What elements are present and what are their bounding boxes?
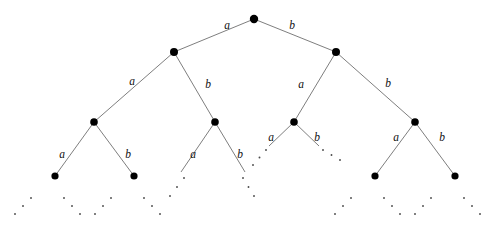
ellipsis-dot xyxy=(422,205,424,207)
tree-edge-root-a xyxy=(174,19,254,52)
ellipsis-dot xyxy=(350,197,352,199)
edge-label-aa-aab: b xyxy=(125,149,131,161)
edge-label-b-ba: a xyxy=(298,79,304,91)
ellipsis-aaa-left-icon xyxy=(14,197,32,215)
ellipsis-dot xyxy=(71,205,73,207)
ellipsis-dot xyxy=(322,149,324,151)
ellipsis-dot xyxy=(159,213,161,215)
tree-truncated-edge-ab-a-0 xyxy=(181,122,215,172)
ellipsis-dot xyxy=(22,205,24,207)
ellipsis-ba-left-icon xyxy=(252,149,267,166)
tree-node-bbb xyxy=(451,172,458,179)
ellipsis-dot xyxy=(102,205,104,207)
ellipsis-dot xyxy=(252,164,254,166)
tree-node-bb xyxy=(411,118,419,126)
edge-label-ab-dots-a: a xyxy=(190,149,196,161)
ellipsis-dot xyxy=(331,154,333,156)
tree-node-aaa xyxy=(51,172,58,179)
ellipsis-dot xyxy=(334,213,336,215)
tree-truncated-edges-group xyxy=(181,122,319,172)
tree-truncated-edge-ab-b-1 xyxy=(215,122,245,172)
ellipsis-dot xyxy=(110,197,112,199)
tree-edge-b-bb xyxy=(336,52,415,122)
tree-node-b xyxy=(332,48,340,56)
ellipsis-dot xyxy=(242,177,244,179)
edge-label-b-bb: b xyxy=(385,78,391,90)
ellipsis-bba-right-icon xyxy=(383,197,401,215)
ellipsis-dot xyxy=(471,205,473,207)
edge-label-root-a: a xyxy=(224,20,230,32)
ellipsis-aab-right-icon xyxy=(143,197,161,215)
ellipsis-dot xyxy=(253,195,255,197)
ellipsis-dot xyxy=(342,205,344,207)
ellipsis-dot xyxy=(463,197,465,199)
ellipsis-dot xyxy=(248,186,250,188)
ellipsis-aaa-right-icon xyxy=(63,197,81,215)
ellipsis-ab-left-icon xyxy=(169,177,185,197)
ellipsis-dot xyxy=(63,197,65,199)
ellipsis-dot xyxy=(151,205,153,207)
edge-label-root-b: b xyxy=(289,20,295,32)
ellipsis-dot xyxy=(176,186,178,188)
tree-node-ba xyxy=(290,118,298,126)
binary-tree-diagram: ababababababab xyxy=(0,0,502,227)
tree-node-aa xyxy=(90,118,98,126)
ellipsis-bbb-left-icon xyxy=(414,197,432,215)
ellipsis-dot xyxy=(79,213,81,215)
ellipsis-aab-left-icon xyxy=(94,197,112,215)
ellipsis-bba-left-icon xyxy=(334,197,352,215)
ellipsis-ab-right-icon xyxy=(242,177,255,197)
ellipsis-dot xyxy=(391,205,393,207)
ellipsis-dot xyxy=(169,195,171,197)
ellipsis-bbb-right-icon xyxy=(463,197,481,215)
edge-label-bb-bbb: b xyxy=(439,132,445,144)
ellipsis-ba-right-icon xyxy=(322,149,341,161)
edge-label-aa-aaa: a xyxy=(59,149,65,161)
tree-edge-bb-bbb xyxy=(415,122,455,176)
ellipsis-dot xyxy=(259,157,261,159)
tree-node-aab xyxy=(130,172,137,179)
ellipsis-dot xyxy=(479,213,481,215)
ellipsis-dot xyxy=(30,197,32,199)
ellipsis-dot xyxy=(265,149,267,151)
ellipsis-dot xyxy=(14,213,16,215)
edge-label-ba-dots-b: b xyxy=(314,132,320,144)
tree-edge-bb-bba xyxy=(375,122,415,176)
tree-node-ab xyxy=(211,118,219,126)
edge-label-a-aa: a xyxy=(129,76,135,88)
tree-graphics-canvas xyxy=(0,0,502,227)
ellipsis-dot xyxy=(430,197,432,199)
ellipsis-dot xyxy=(94,213,96,215)
tree-node-root xyxy=(250,15,258,23)
ellipsis-dot xyxy=(339,159,341,161)
ellipsis-dot xyxy=(143,197,145,199)
tree-nodes-group xyxy=(51,15,458,180)
ellipsis-dot xyxy=(183,177,185,179)
edge-label-bb-bba: a xyxy=(393,132,399,144)
ellipsis-dot xyxy=(414,213,416,215)
tree-node-a xyxy=(170,48,178,56)
tree-ellipses-group xyxy=(14,149,481,215)
edge-label-a-ab: b xyxy=(205,79,211,91)
ellipsis-dot xyxy=(383,197,385,199)
tree-edges-group xyxy=(55,19,455,176)
edge-label-ab-dots-b: b xyxy=(237,149,243,161)
ellipsis-dot xyxy=(399,213,401,215)
tree-node-bba xyxy=(371,172,378,179)
edge-label-ba-dots-a: a xyxy=(268,132,274,144)
